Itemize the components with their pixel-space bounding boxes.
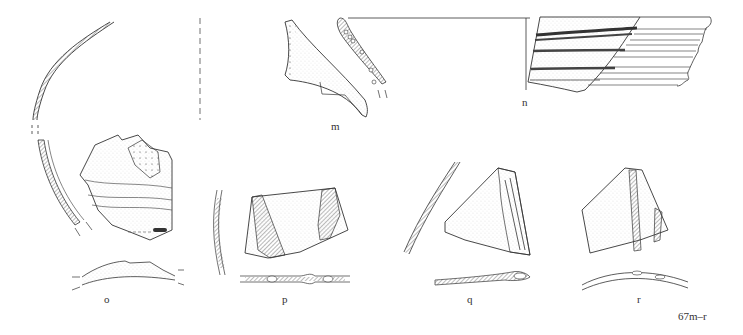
drawing-canvas <box>0 0 743 335</box>
figure-caption: 67m–r <box>678 310 707 322</box>
sherd-o-section <box>72 261 184 290</box>
label-m: m <box>331 120 340 132</box>
label-n: n <box>522 96 528 108</box>
sherd-m <box>285 18 530 117</box>
label-q: q <box>467 293 473 305</box>
label-o: o <box>104 293 110 305</box>
sherd-p <box>214 188 350 284</box>
sherd-o-face <box>80 135 172 240</box>
sherd-r <box>582 168 688 290</box>
label-r: r <box>637 293 641 305</box>
sherd-q <box>404 162 530 285</box>
sherd-n <box>526 17 711 92</box>
label-p: p <box>282 293 288 305</box>
